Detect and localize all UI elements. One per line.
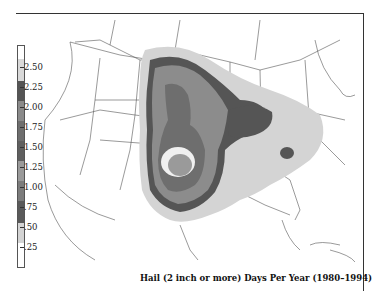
- legend-tick: 1.25: [24, 163, 43, 172]
- color-legend: [17, 45, 25, 268]
- legend-tick: 1.75: [24, 123, 43, 132]
- zone-southeast-spot: [280, 147, 294, 159]
- legend-tick: .50: [24, 223, 38, 232]
- legend-tick: .75: [24, 203, 38, 212]
- legend-band: [18, 46, 24, 59]
- us-hail-map: [0, 0, 375, 294]
- hail-contours: [139, 47, 323, 222]
- legend-tick: 1.50: [24, 143, 43, 152]
- legend-tick: .25: [24, 243, 38, 252]
- legend-tick: 2.00: [24, 103, 43, 112]
- legend-tick: 2.25: [24, 83, 43, 92]
- map-title: Hail (2 inch or more) Days Per Year (198…: [140, 273, 372, 283]
- zone-center: [168, 154, 192, 176]
- legend-tick: 1.00: [24, 183, 43, 192]
- legend-tick: 2.50: [24, 63, 43, 72]
